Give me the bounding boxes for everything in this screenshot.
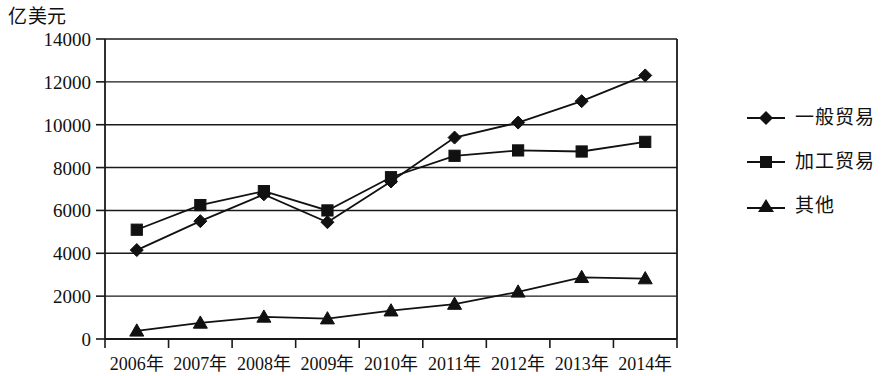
x-axis-tick-label: 2011年 bbox=[428, 354, 481, 374]
series-1 bbox=[130, 69, 651, 257]
triangle-marker-icon bbox=[745, 197, 787, 215]
data-point-diamond bbox=[321, 216, 334, 229]
x-axis-tick-label: 2012年 bbox=[491, 354, 545, 374]
data-point-square bbox=[258, 186, 269, 197]
data-point-square bbox=[322, 205, 333, 216]
series-line bbox=[137, 75, 645, 250]
x-axis-tick-label: 2007年 bbox=[173, 354, 227, 374]
square-marker-icon bbox=[745, 153, 787, 171]
y-axis-tick-label: 10000 bbox=[44, 115, 92, 136]
data-point-square bbox=[131, 224, 142, 235]
x-axis-tick-label: 2013年 bbox=[555, 354, 609, 374]
data-point-square bbox=[385, 172, 396, 183]
chart-legend: 一般贸易 加工贸易 其他 bbox=[745, 96, 880, 228]
data-point-diamond bbox=[512, 116, 525, 129]
x-axis-tick-label: 2006年 bbox=[110, 354, 164, 374]
x-axis-tick-label: 2010年 bbox=[364, 354, 418, 374]
y-axis-tick-label: 12000 bbox=[44, 72, 92, 93]
data-point-diamond bbox=[448, 131, 461, 144]
legend-label-other: 其他 bbox=[787, 196, 835, 216]
data-point-square bbox=[195, 199, 206, 210]
chart-canvas: 020004000600080001000012000140002006年200… bbox=[0, 0, 700, 376]
x-axis-tick-label: 2009年 bbox=[300, 354, 354, 374]
legend-item-general-trade: 一般贸易 bbox=[745, 96, 880, 140]
legend-label-general-trade: 一般贸易 bbox=[787, 108, 875, 128]
y-axis-tick-label: 8000 bbox=[53, 158, 91, 179]
y-axis-tick-label: 6000 bbox=[53, 200, 91, 221]
legend-item-processing-trade: 加工贸易 bbox=[745, 140, 880, 184]
y-axis-tick-label: 0 bbox=[82, 329, 92, 350]
data-point-diamond bbox=[194, 215, 207, 228]
data-point-square bbox=[449, 150, 460, 161]
legend-label-processing-trade: 加工贸易 bbox=[787, 152, 875, 172]
line-chart: 020004000600080001000012000140002006年200… bbox=[0, 0, 700, 376]
chart-page: 亿美元 020004000600080001000012000140002006… bbox=[0, 0, 882, 376]
data-point-triangle bbox=[257, 310, 271, 322]
data-point-square bbox=[640, 136, 651, 147]
series-3 bbox=[130, 270, 652, 336]
x-axis-tick-label: 2014年 bbox=[618, 354, 672, 374]
y-axis-tick-label: 4000 bbox=[53, 243, 91, 264]
y-axis-tick-label: 2000 bbox=[53, 286, 91, 307]
diamond-marker-icon bbox=[745, 109, 787, 127]
x-axis-tick-label: 2008年 bbox=[237, 354, 291, 374]
data-point-diamond bbox=[130, 244, 143, 257]
data-point-square bbox=[513, 145, 524, 156]
y-axis-tick-label: 14000 bbox=[44, 29, 92, 50]
data-point-diamond bbox=[575, 95, 588, 108]
data-point-triangle bbox=[575, 270, 589, 282]
legend-item-other: 其他 bbox=[745, 184, 880, 228]
data-point-diamond bbox=[639, 69, 652, 82]
data-point-square bbox=[576, 146, 587, 157]
